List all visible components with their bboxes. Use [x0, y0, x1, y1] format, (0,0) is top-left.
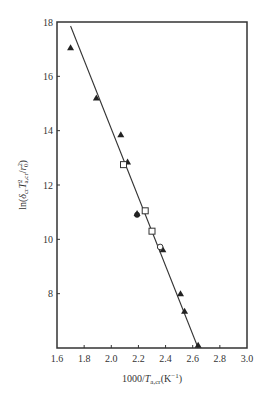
plot-frame: [57, 22, 247, 348]
data-point-circle-filled: [134, 212, 140, 218]
x-tick-label: 1.6: [51, 353, 64, 364]
y-tick-label: 12: [43, 180, 53, 191]
y-axis-label: ln(δcrT2a,cr/r20): [16, 160, 30, 210]
x-axis-label: 1000/Ta,cr(K−1): [122, 372, 182, 386]
x-tick-label: 3.0: [241, 353, 254, 364]
x-tick-label: 2.4: [159, 353, 172, 364]
x-tick-label: 2.2: [132, 353, 145, 364]
data-point-triangle: [177, 290, 184, 296]
chart: 1.61.82.02.22.42.62.83.0 81012141618 100…: [0, 0, 267, 400]
data-point-triangle: [117, 131, 124, 137]
fit-line: [71, 26, 199, 348]
y-tick-label: 8: [48, 288, 53, 299]
y-tick-label: 18: [43, 17, 53, 28]
x-tick-label: 1.8: [78, 353, 91, 364]
fit-line-group: [71, 26, 199, 348]
y-tick-label: 10: [43, 234, 53, 245]
x-tick-label: 2.6: [186, 353, 199, 364]
x-tick-label: 2.0: [105, 353, 118, 364]
data-point-triangle: [67, 44, 74, 50]
data-point-square: [149, 228, 155, 234]
y-tick-label: 14: [43, 125, 53, 136]
data-point-circle-open: [157, 244, 163, 250]
data-point-square: [121, 162, 127, 168]
x-tick-label: 2.8: [214, 353, 227, 364]
data-points: [67, 44, 202, 347]
y-tick-label: 16: [43, 71, 53, 82]
data-point-square: [142, 208, 148, 214]
